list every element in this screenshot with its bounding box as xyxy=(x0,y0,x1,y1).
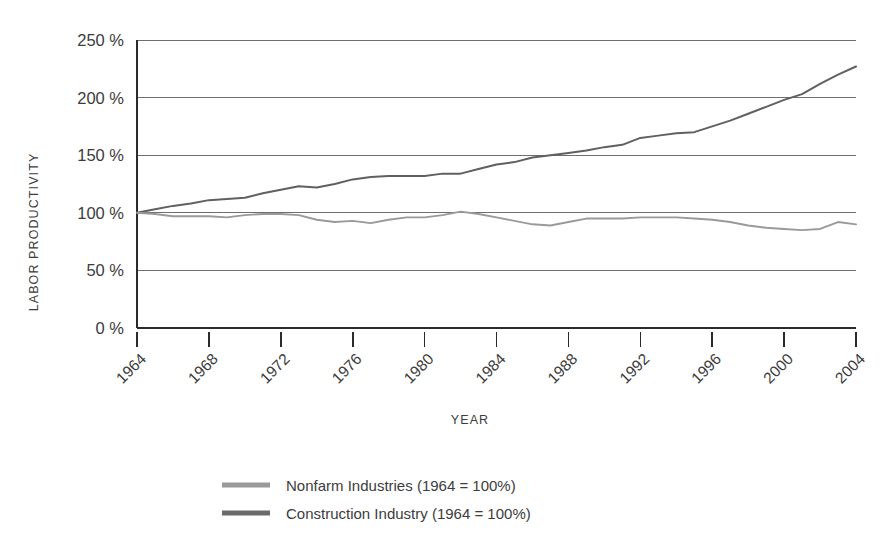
y-tick-labels-group: 0 %50 %100 %150 %200 %250 % xyxy=(77,31,124,337)
labor-productivity-chart: 0 %50 %100 %150 %200 %250 % 196419681972… xyxy=(0,0,882,555)
legend-label-1: Construction Industry (1964 = 100%) xyxy=(286,505,531,522)
gridlines-group xyxy=(137,40,856,270)
x-tick-label-1968: 1968 xyxy=(185,350,221,386)
y-tick-label-250: 250 % xyxy=(77,31,124,49)
axes-group xyxy=(137,40,856,328)
chart-svg: 0 %50 %100 %150 %200 %250 % 196419681972… xyxy=(0,0,882,555)
series-line-nonfarm xyxy=(137,67,856,213)
series-line-construction xyxy=(137,212,856,230)
y-axis-title: LABOR PRODUCTIVITY xyxy=(27,153,41,312)
x-tick-label-2000: 2000 xyxy=(760,350,797,387)
x-tick-label-1976: 1976 xyxy=(328,350,364,386)
x-tick-label-1964: 1964 xyxy=(113,350,150,387)
y-tick-label-150: 150 % xyxy=(77,146,124,164)
series-group xyxy=(137,67,856,231)
y-tick-label-200: 200 % xyxy=(77,89,124,107)
x-tick-label-1996: 1996 xyxy=(688,350,724,386)
x-tick-label-1980: 1980 xyxy=(400,350,437,387)
y-tick-label-0: 0 % xyxy=(96,319,125,337)
x-tick-label-1972: 1972 xyxy=(257,350,293,386)
x-tick-marks-group xyxy=(137,332,856,347)
legend: Nonfarm Industries (1964 = 100%)Construc… xyxy=(222,477,531,522)
y-tick-label-50: 50 % xyxy=(86,261,124,279)
x-tick-label-1988: 1988 xyxy=(544,350,580,386)
x-tick-label-1992: 1992 xyxy=(616,350,652,386)
y-tick-label-100: 100 % xyxy=(77,204,124,222)
x-tick-label-1984: 1984 xyxy=(472,350,509,387)
legend-label-0: Nonfarm Industries (1964 = 100%) xyxy=(286,477,516,494)
x-tick-label-2004: 2004 xyxy=(832,350,869,387)
x-tick-labels-group: 1964196819721976198019841988199219962000… xyxy=(113,350,869,387)
x-axis-title: YEAR xyxy=(451,413,489,427)
